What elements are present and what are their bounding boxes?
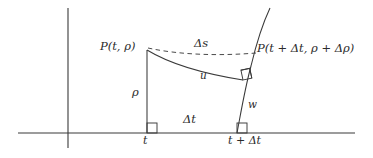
diagram-canvas	[0, 0, 373, 158]
label-delta-s: Δs	[194, 38, 208, 50]
right-angle-at-u-w	[241, 68, 252, 80]
right-angle-at-t	[147, 123, 157, 133]
label-u: u	[200, 70, 207, 81]
figure-container: P(t, ρ) P(t + Δt, ρ + Δρ) Δs u w ρ Δt t …	[0, 0, 373, 158]
label-rho: ρ	[132, 87, 139, 99]
tick-label-t-plus-delta-t: t + Δt	[228, 135, 261, 146]
rising-curve	[237, 8, 270, 133]
label-w: w	[248, 99, 257, 110]
label-point-left: P(t, ρ)	[100, 41, 135, 53]
tick-label-t: t	[143, 135, 147, 146]
label-point-right: P(t + Δt, ρ + Δρ)	[257, 43, 354, 55]
label-delta-t: Δt	[183, 114, 196, 126]
